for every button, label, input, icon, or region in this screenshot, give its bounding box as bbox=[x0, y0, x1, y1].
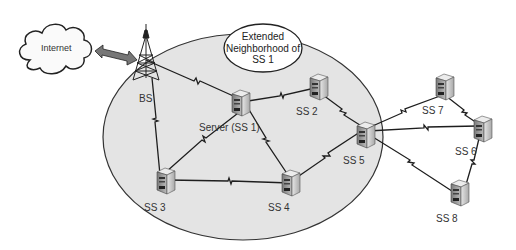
server-ss1-icon bbox=[232, 90, 250, 116]
server-ss5-icon bbox=[357, 122, 375, 148]
base-station-tower-icon bbox=[133, 24, 159, 80]
ss1-label: Server (SS 1) bbox=[199, 123, 260, 133]
server-ss8-icon bbox=[451, 180, 469, 206]
server-ss2-icon bbox=[310, 74, 328, 100]
server-ss7-icon bbox=[436, 74, 454, 100]
server-ss4-icon bbox=[282, 170, 300, 196]
ss6-label: SS 6 bbox=[455, 147, 477, 157]
internet-bs-link-arrow bbox=[95, 45, 137, 65]
ss4-label: SS 4 bbox=[268, 203, 290, 213]
neighborhood-callout-text: Extended Neighborhood of SS 1 bbox=[224, 31, 302, 66]
bs-label: BS bbox=[139, 94, 152, 104]
ss2-label: SS 2 bbox=[296, 107, 318, 117]
internet-label: Internet bbox=[41, 43, 72, 53]
server-ss6-icon bbox=[474, 116, 492, 142]
ss5-label: SS 5 bbox=[343, 156, 365, 166]
network-diagram: Internet Extended Neighborhood of SS 1 B… bbox=[0, 0, 516, 250]
callout-line-3: SS 1 bbox=[224, 54, 302, 66]
ss7-label: SS 7 bbox=[422, 106, 444, 116]
callout-line-1: Extended bbox=[224, 31, 302, 43]
callout-line-2: Neighborhood of bbox=[224, 43, 302, 55]
server-ss3-icon bbox=[157, 168, 175, 194]
ss8-label: SS 8 bbox=[436, 214, 458, 224]
ss3-label: SS 3 bbox=[144, 203, 166, 213]
